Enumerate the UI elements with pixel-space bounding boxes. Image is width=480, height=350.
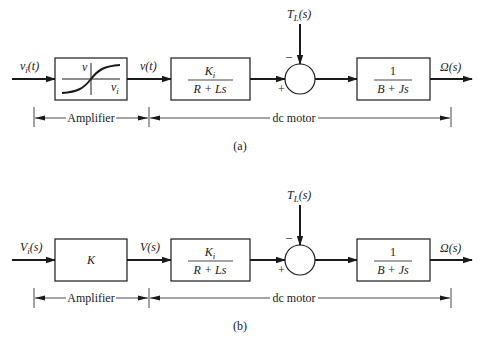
amplifier-dim-label-b: Amplifier xyxy=(67,291,114,305)
caption-a: (a) xyxy=(233,139,246,153)
input-signal-a: vi(t) xyxy=(12,59,55,79)
motor-dim-label-b: dc motor xyxy=(273,291,316,305)
svg-text:R + Ls: R + Ls xyxy=(193,263,227,277)
axis-label-v: v xyxy=(82,60,88,74)
plus-sign-b: + xyxy=(278,263,285,277)
mechanical-block-b: 1 B + Js xyxy=(357,239,430,281)
dimension-lines-a: Amplifier dc motor xyxy=(34,107,451,127)
summing-junction-b: – + xyxy=(278,230,315,277)
mid-label-a: v(t) xyxy=(140,59,157,73)
input-label-a: vi(t) xyxy=(20,59,39,75)
svg-text:K: K xyxy=(86,253,96,267)
electrical-block-b: Ki R + Ls xyxy=(171,239,250,281)
panel-a: vi(t) v vi v(t) Ki R + Ls – + TL xyxy=(12,7,472,153)
svg-text:B + Js: B + Js xyxy=(377,82,409,96)
input-label-b: Vi(s) xyxy=(20,240,43,256)
mid-label-b: V(s) xyxy=(140,240,160,254)
amplifier-dim-label-a: Amplifier xyxy=(67,111,114,125)
electrical-block-a: Ki R + Ls xyxy=(171,58,250,100)
minus-sign-a: – xyxy=(285,49,293,63)
disturbance-label-b: TL(s) xyxy=(287,188,311,204)
svg-text:B + Js: B + Js xyxy=(377,263,409,277)
disturbance-label-a: TL(s) xyxy=(287,7,311,23)
output-label-b: Ω(s) xyxy=(440,241,461,255)
amplifier-saturation-block: v vi xyxy=(55,58,127,100)
plus-sign-a: + xyxy=(278,82,285,96)
mechanical-block-a: 1 B + Js xyxy=(357,58,430,100)
summing-junction-a: – + xyxy=(278,49,315,96)
dc-motor-block-diagrams: vi(t) v vi v(t) Ki R + Ls – + TL xyxy=(0,0,480,350)
motor-dim-label-a: dc motor xyxy=(273,111,316,125)
svg-text:R + Ls: R + Ls xyxy=(193,82,227,96)
minus-sign-b: – xyxy=(285,230,293,244)
dimension-lines-b: Amplifier dc motor xyxy=(34,288,451,308)
caption-b: (b) xyxy=(233,319,247,333)
svg-text:1: 1 xyxy=(390,64,396,78)
output-label-a: Ω(s) xyxy=(440,60,461,74)
panel-b: Vi(s) K V(s) Ki R + Ls – + TL(s) 1 B + J… xyxy=(12,188,472,333)
svg-text:1: 1 xyxy=(390,245,396,259)
amplifier-gain-block: K xyxy=(55,239,127,281)
